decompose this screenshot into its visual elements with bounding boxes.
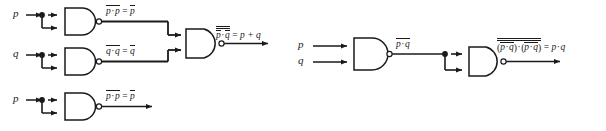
expr-equals4: = (120, 91, 130, 101)
label-input-q-gate2: q (13, 48, 19, 59)
expr-result-or: p + q (240, 30, 261, 40)
figure-canvas: p q p p·p=p q·q=q p·q=p + q p·p=p p q p·… (0, 0, 606, 131)
expr-result-q: q (130, 46, 135, 56)
label-input-p-inverter: p (13, 93, 19, 104)
label-right-gate2-output: (p·q)·(p·q)=p·q (497, 38, 565, 53)
expr-result-p2: p (130, 91, 135, 101)
expr-term-q3: q (225, 30, 230, 40)
expr-result-rq: q (560, 42, 565, 52)
label-right-input-p: p (298, 39, 304, 50)
label-input-p-gate1: p (13, 8, 19, 19)
label-inverter-output: p·p=p (106, 90, 135, 101)
expr-term-p2: p (115, 6, 120, 16)
expr-term-p5: p (115, 91, 120, 101)
expr-term-q2: q (115, 46, 120, 56)
label-right-input-q: q (298, 55, 304, 66)
label-gate2-output: q·q=q (106, 45, 135, 56)
expr-equals-r: = (541, 42, 551, 52)
label-gate3-output: p·q=p + q (216, 26, 261, 41)
label-gate1-output: p·p=p (106, 5, 135, 16)
expr-equals1: = (120, 6, 130, 16)
expr-result-p: p (130, 6, 135, 16)
expr-term-rq: q (405, 39, 410, 49)
expr-equals2: = (120, 46, 130, 56)
label-right-gate1-output: p·q (396, 38, 410, 49)
expr-equals3: = (230, 30, 240, 40)
